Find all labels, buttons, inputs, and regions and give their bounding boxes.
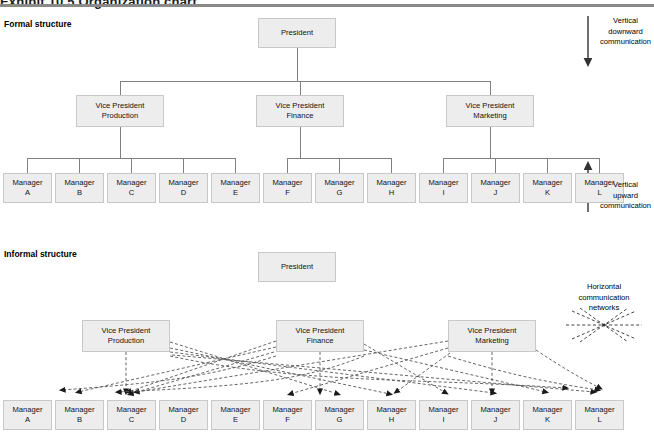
formal-vp-production-node[interactable]: Vice President Production xyxy=(76,95,164,127)
node-line-1: Manager xyxy=(117,405,147,416)
informal-vp-marketing-node[interactable]: Vice President Marketing xyxy=(448,320,536,352)
node-line-2: E xyxy=(233,188,238,199)
node-line-1: Manager xyxy=(169,178,199,189)
network-burst-center xyxy=(602,323,605,326)
node-line-2: Marketing xyxy=(475,336,508,347)
node-line-2: G xyxy=(337,188,343,199)
section-label-formal: Formal structure xyxy=(4,19,72,29)
node-line-2: H xyxy=(389,415,394,426)
formal-manager-node[interactable]: Manager G xyxy=(315,173,364,203)
node-line-1: Manager xyxy=(325,405,355,416)
informal-manager-node[interactable]: Manager E xyxy=(211,400,260,430)
annotation-line-3: communication xyxy=(600,201,651,212)
node-line-1: Manager xyxy=(377,405,407,416)
informal-manager-node[interactable]: Manager C xyxy=(107,400,156,430)
annotation-vertical-downward: Vertical downward communication xyxy=(600,16,651,48)
organization-chart-figure: Exhibit 10.5 Organization chart Formal s… xyxy=(0,0,654,432)
node-line-1: President xyxy=(281,28,313,39)
node-line-2: F xyxy=(285,415,290,426)
informal-manager-node[interactable]: Manager G xyxy=(315,400,364,430)
title-divider xyxy=(0,4,654,7)
formal-manager-node[interactable]: Manager I xyxy=(419,173,468,203)
node-line-1: Vice President xyxy=(276,101,325,112)
annotation-line-1: Horizontal xyxy=(556,282,652,293)
node-line-2: A xyxy=(25,415,30,426)
formal-manager-node[interactable]: Manager C xyxy=(107,173,156,203)
node-line-2: Marketing xyxy=(473,111,506,122)
annotation-line-2: upward xyxy=(600,191,651,202)
informal-vp-finance-node[interactable]: Vice President Finance xyxy=(276,320,364,352)
node-line-2: L xyxy=(597,415,601,426)
node-line-2: C xyxy=(129,415,134,426)
formal-manager-node[interactable]: Manager J xyxy=(471,173,520,203)
informal-manager-node[interactable]: Manager H xyxy=(367,400,416,430)
node-line-1: Manager xyxy=(273,178,303,189)
node-line-1: Manager xyxy=(533,178,563,189)
node-line-1: Manager xyxy=(169,405,199,416)
node-line-1: Manager xyxy=(481,405,511,416)
node-line-2: D xyxy=(181,415,186,426)
informal-manager-node[interactable]: Manager K xyxy=(523,400,572,430)
node-line-1: Manager xyxy=(65,178,95,189)
node-line-2: Production xyxy=(108,336,144,347)
node-line-1: Manager xyxy=(481,178,511,189)
annotation-horizontal-networks: Horizontal communication networks xyxy=(556,282,652,314)
node-line-1: Manager xyxy=(65,405,95,416)
node-line-1: Vice President xyxy=(466,101,515,112)
node-line-2: I xyxy=(442,415,444,426)
informal-manager-node[interactable]: Manager B xyxy=(55,400,104,430)
formal-manager-node[interactable]: Manager H xyxy=(367,173,416,203)
formal-manager-node[interactable]: Manager K xyxy=(523,173,572,203)
annotation-line-2: downward xyxy=(600,27,651,38)
annotation-line-3: networks xyxy=(556,303,652,314)
node-line-1: Manager xyxy=(13,178,43,189)
informal-manager-node[interactable]: Manager A xyxy=(3,400,52,430)
informal-vp-stubs xyxy=(126,352,492,392)
informal-manager-node[interactable]: Manager L xyxy=(575,400,624,430)
informal-manager-node[interactable]: Manager D xyxy=(159,400,208,430)
node-line-1: Manager xyxy=(13,405,43,416)
annotation-line-2: communication xyxy=(556,293,652,304)
informal-manager-node[interactable]: Manager I xyxy=(419,400,468,430)
informal-president-node[interactable]: President xyxy=(258,252,336,282)
formal-manager-node[interactable]: Manager E xyxy=(211,173,260,203)
node-line-1: Manager xyxy=(117,178,147,189)
node-line-2: B xyxy=(77,188,82,199)
informal-vp-production-node[interactable]: Vice President Production xyxy=(82,320,170,352)
node-line-2: Finance xyxy=(306,336,333,347)
node-line-2: G xyxy=(337,415,343,426)
node-line-1: Manager xyxy=(221,178,251,189)
node-line-1: President xyxy=(281,262,313,273)
node-line-1: Vice President xyxy=(468,326,517,337)
node-line-2: B xyxy=(77,415,82,426)
formal-manager-node[interactable]: Manager B xyxy=(55,173,104,203)
node-line-2: K xyxy=(545,188,550,199)
node-line-1: Manager xyxy=(377,178,407,189)
node-line-2: F xyxy=(285,188,290,199)
formal-manager-node[interactable]: Manager D xyxy=(159,173,208,203)
node-line-1: Manager xyxy=(325,178,355,189)
node-line-2: J xyxy=(494,415,498,426)
annotation-line-3: communication xyxy=(600,37,651,48)
annotation-line-1: Vertical xyxy=(600,180,651,191)
formal-president-node[interactable]: President xyxy=(258,18,336,48)
node-line-2: K xyxy=(545,415,550,426)
node-line-1: Manager xyxy=(429,178,459,189)
formal-vp-marketing-node[interactable]: Vice President Marketing xyxy=(446,95,534,127)
informal-manager-node[interactable]: Manager J xyxy=(471,400,520,430)
formal-manager-node[interactable]: Manager A xyxy=(3,173,52,203)
node-line-2: E xyxy=(233,415,238,426)
informal-manager-node[interactable]: Manager F xyxy=(263,400,312,430)
node-line-1: Vice President xyxy=(296,326,345,337)
node-line-2: Production xyxy=(102,111,138,122)
node-line-1: Vice President xyxy=(96,101,145,112)
node-line-1: Manager xyxy=(221,405,251,416)
formal-vp-finance-node[interactable]: Vice President Finance xyxy=(256,95,344,127)
formal-manager-node[interactable]: Manager F xyxy=(263,173,312,203)
node-line-2: Finance xyxy=(286,111,313,122)
node-line-1: Manager xyxy=(273,405,303,416)
node-line-1: Vice President xyxy=(102,326,151,337)
annotation-line-1: Vertical xyxy=(600,16,651,27)
node-line-1: Manager xyxy=(429,405,459,416)
node-line-2: A xyxy=(25,188,30,199)
